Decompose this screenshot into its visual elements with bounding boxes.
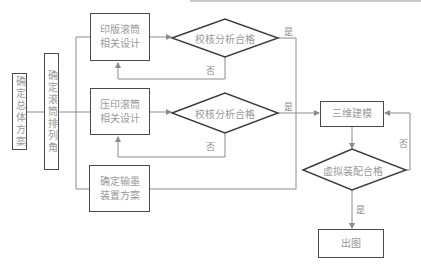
no-label-2: 否 bbox=[206, 140, 215, 153]
virtual-assembly-label: 虚拟装配合格 bbox=[318, 163, 388, 178]
yes-label-2: 是 bbox=[284, 100, 293, 113]
plate-roller-design-label: 印版滚筒 相关设计 bbox=[100, 23, 140, 51]
impression-roller-design-label: 压印滚筒 相关设计 bbox=[100, 98, 140, 126]
roller-angle-label: 确定滚筒排列角 bbox=[45, 70, 59, 154]
3d-modeling-label: 三维建模 bbox=[332, 107, 372, 121]
3d-modeling-box: 三维建模 bbox=[320, 101, 384, 127]
yes-label-3: 是 bbox=[356, 203, 365, 216]
check-diamond-1-label: 校核分析合格 bbox=[190, 31, 260, 46]
impression-roller-design-box: 压印滚筒 相关设计 bbox=[90, 88, 150, 135]
output-drawing-label: 出图 bbox=[341, 237, 361, 251]
no-label-1: 否 bbox=[206, 64, 215, 77]
output-drawing-box: 出图 bbox=[318, 229, 384, 258]
no-label-3: 否 bbox=[399, 137, 408, 150]
ink-device-plan-box: 确定输墨 装置方案 bbox=[89, 165, 150, 212]
yes-label-1: 是 bbox=[284, 25, 293, 38]
overall-plan-label: 确定总体方案 bbox=[13, 76, 27, 148]
check-diamond-2-label: 校核分析合格 bbox=[190, 106, 260, 121]
ink-device-plan-label: 确定输墨 装置方案 bbox=[100, 175, 140, 203]
overall-plan-box: 确定总体方案 bbox=[12, 73, 27, 150]
plate-roller-design-box: 印版滚筒 相关设计 bbox=[90, 13, 150, 61]
roller-angle-box: 确定滚筒排列角 bbox=[44, 53, 59, 170]
